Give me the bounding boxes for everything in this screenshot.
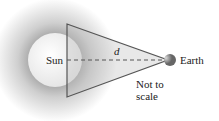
earth-label: Earth: [180, 55, 204, 66]
distance-label: d: [114, 46, 120, 57]
sun-label: Sun: [46, 55, 63, 66]
earth: [164, 54, 176, 66]
note-line2: scale: [136, 91, 158, 102]
note-line1: Not to: [136, 79, 164, 90]
